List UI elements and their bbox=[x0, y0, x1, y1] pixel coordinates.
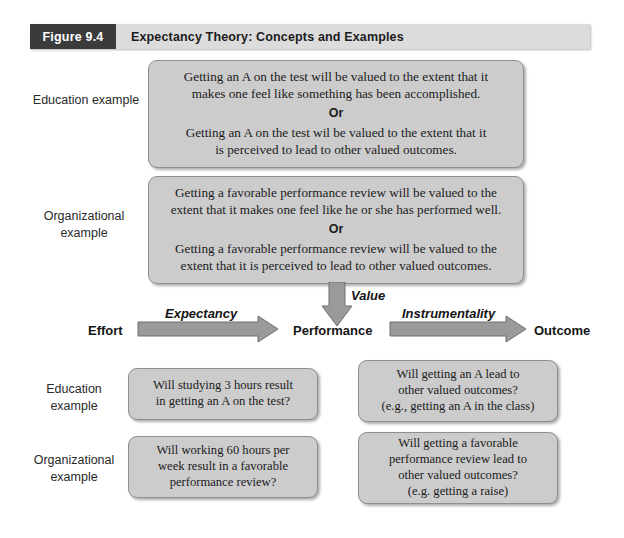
statement-line: is perceived to lead to other valued out… bbox=[186, 142, 487, 159]
education-expectancy-question-box: Will studying 3 hours result in getting … bbox=[128, 368, 318, 420]
question-line: performance review? bbox=[170, 475, 277, 491]
row-label-line-2: example bbox=[60, 226, 107, 240]
question-line: week result in a favorable bbox=[158, 459, 288, 475]
node-label-outcome: Outcome bbox=[534, 323, 590, 338]
question-line: in getting an A on the test? bbox=[156, 394, 290, 410]
expectancy-arrow-label: Expectancy bbox=[165, 306, 237, 321]
organizational-value-statement-box: Getting a favorable performance review w… bbox=[148, 176, 524, 284]
row-label-education-examples: Education example bbox=[22, 381, 126, 415]
question-line: other valued outcomes? bbox=[398, 468, 518, 484]
row-label-line-2: example bbox=[92, 93, 139, 107]
question-line: Will getting a favorable bbox=[398, 436, 517, 452]
question-line: (e.g., getting an A in the class) bbox=[382, 399, 535, 415]
question-line: Will studying 3 hours result bbox=[153, 378, 293, 394]
expectancy-flow-diagram: Value Expectancy Instrumentality Effort … bbox=[0, 282, 624, 354]
row-label-organizational-value: Organizational example bbox=[22, 208, 146, 242]
figure-title: Expectancy Theory: Concepts and Examples bbox=[116, 24, 590, 49]
statement-line: Getting an A on the test wil be valued t… bbox=[186, 125, 487, 142]
statement-line: Getting a favorable performance review w… bbox=[171, 185, 502, 202]
row-label-line-2: example bbox=[50, 470, 97, 484]
row-label-line-2: example bbox=[50, 399, 97, 413]
question-line: Will working 60 hours per bbox=[156, 443, 289, 459]
row-label-organizational-examples: Organizational example bbox=[16, 452, 132, 486]
value-arrow-icon bbox=[322, 282, 352, 326]
question-line: performance review lead to bbox=[389, 452, 527, 468]
organizational-value-connector: Or bbox=[329, 222, 344, 238]
question-line: (e.g. getting a raise) bbox=[408, 484, 508, 500]
education-value-paragraph-1: Getting an A on the test will be valued … bbox=[184, 69, 488, 102]
education-instrumentality-question-box: Will getting an A lead to other valued o… bbox=[358, 360, 558, 422]
organizational-expectancy-question-box: Will working 60 hours per week result in… bbox=[128, 436, 318, 498]
question-line: other valued outcomes? bbox=[398, 383, 518, 399]
node-label-effort: Effort bbox=[88, 323, 123, 338]
statement-line: Getting a favorable performance review w… bbox=[175, 241, 497, 258]
organizational-value-paragraph-2: Getting a favorable performance review w… bbox=[175, 241, 497, 274]
organizational-instrumentality-question-box: Will getting a favorable performance rev… bbox=[358, 432, 558, 504]
statement-line: extent that it is perceived to lead to o… bbox=[175, 258, 497, 275]
figure-header-band: Figure 9.4 Expectancy Theory: Concepts a… bbox=[30, 24, 590, 49]
figure-number-label: Figure 9.4 bbox=[30, 24, 116, 49]
row-label-line-1: Education bbox=[46, 382, 102, 396]
statement-line: makes one feel like something has been a… bbox=[184, 86, 488, 103]
statement-line: extent that it makes one feel like he or… bbox=[171, 202, 502, 219]
education-value-paragraph-2: Getting an A on the test wil be valued t… bbox=[186, 125, 487, 158]
education-value-connector: Or bbox=[329, 106, 344, 122]
row-label-education-value: Education example bbox=[30, 92, 142, 109]
row-label-line-1: Organizational bbox=[44, 209, 125, 223]
organizational-value-paragraph-1: Getting a favorable performance review w… bbox=[171, 185, 502, 218]
statement-line: Getting an A on the test will be valued … bbox=[184, 69, 488, 86]
instrumentality-arrow-label: Instrumentality bbox=[402, 306, 495, 321]
education-value-statement-box: Getting an A on the test will be valued … bbox=[148, 60, 524, 168]
node-label-performance: Performance bbox=[293, 323, 372, 338]
question-line: Will getting an A lead to bbox=[397, 367, 520, 383]
flow-arrows-svg bbox=[0, 282, 624, 354]
row-label-line-1: Organizational bbox=[34, 453, 115, 467]
row-label-line-1: Education bbox=[33, 93, 89, 107]
value-arrow-label: Value bbox=[351, 288, 385, 303]
